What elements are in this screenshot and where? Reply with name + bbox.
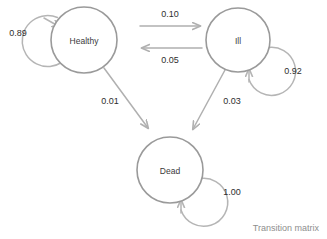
edge-label-healthy-healthy: 0.89: [9, 28, 27, 38]
edge-label-healthy-dead: 0.01: [101, 96, 119, 106]
diagram-caption: Transition matrix: [253, 223, 319, 233]
node-healthy-label: Healthy: [70, 36, 100, 46]
edge-label-dead-dead: 1.00: [223, 187, 241, 197]
transition-diagram: Healthy Ill Dead 0.89 0.10 0.05 0.92 0.0…: [0, 0, 327, 239]
edge-label-ill-healthy: 0.05: [161, 55, 179, 65]
edge-label-ill-ill: 0.92: [284, 66, 302, 76]
node-dead-label: Dead: [160, 166, 181, 176]
transition-diagram-canvas: Healthy Ill Dead 0.89 0.10 0.05 0.92 0.0…: [0, 0, 327, 239]
node-dead[interactable]: Dead: [137, 137, 203, 203]
node-ill-label: Ill: [235, 36, 241, 46]
node-healthy[interactable]: Healthy: [51, 7, 117, 73]
edge-label-ill-dead: 0.03: [223, 96, 241, 106]
edge-ill-to-dead: [193, 70, 225, 129]
edge-label-healthy-ill: 0.10: [161, 9, 179, 19]
node-ill[interactable]: Ill: [206, 8, 270, 72]
